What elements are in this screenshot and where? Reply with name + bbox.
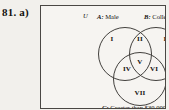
problem-number-label: 81. a) xyxy=(2,6,29,18)
region-label-i: I xyxy=(111,36,114,43)
region-label-vi: VI xyxy=(150,66,158,73)
region-label-iv: IV xyxy=(123,66,131,73)
region-label-v: V xyxy=(137,59,142,66)
universal-set-symbol: U xyxy=(83,13,88,20)
set-b-text: College degree xyxy=(151,13,166,20)
set-a-prefix: A: xyxy=(97,13,104,20)
region-label-iii: III xyxy=(164,36,166,43)
set-b-prefix: B: xyxy=(144,13,151,20)
set-b-label: B: College degree xyxy=(144,14,166,21)
set-c-prefix: C: xyxy=(102,104,109,109)
set-a-label: A: Male xyxy=(97,14,119,21)
set-c-label: C: Greater than $30,000 xyxy=(102,105,166,109)
venn-diagram-figure: 81. a) U A: Male B: College degree C: Gr… xyxy=(0,0,169,110)
set-a-text: Male xyxy=(104,13,119,20)
region-label-ii: II xyxy=(137,36,143,43)
region-label-vii: VII xyxy=(134,90,145,97)
universal-set-rectangle: U A: Male B: College degree C: Greater t… xyxy=(40,5,166,109)
